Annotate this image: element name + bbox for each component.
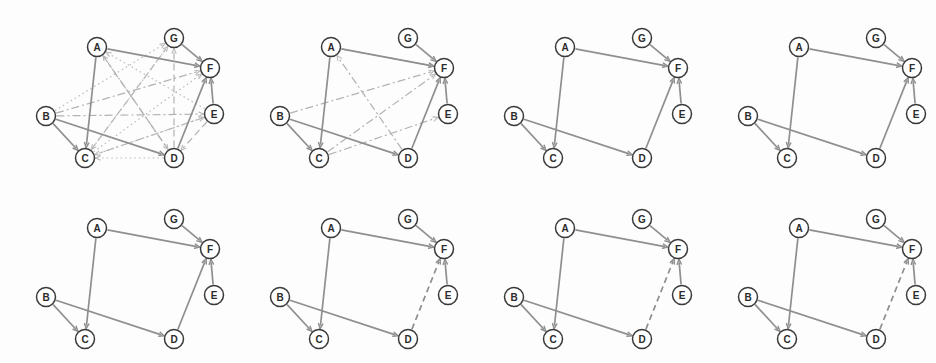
node-label: A bbox=[561, 42, 568, 53]
graph-edge-d-a bbox=[339, 58, 402, 149]
graph-node-d[interactable]: D bbox=[867, 149, 886, 168]
graph-node-g[interactable]: G bbox=[633, 210, 652, 229]
node-label: D bbox=[404, 334, 411, 345]
graph-node-a[interactable]: A bbox=[790, 219, 809, 238]
graph-node-b[interactable]: B bbox=[505, 288, 524, 307]
graph-canvas: AGFEBCD bbox=[468, 181, 702, 362]
graph-node-c[interactable]: C bbox=[310, 330, 329, 349]
graph-node-c[interactable]: C bbox=[310, 149, 329, 168]
node-label: D bbox=[638, 153, 645, 164]
graph-node-a[interactable]: A bbox=[790, 38, 809, 57]
graph-node-f[interactable]: F bbox=[201, 240, 220, 259]
arrowhead-icon bbox=[160, 43, 165, 44]
node-label: C bbox=[81, 334, 88, 345]
graph-node-d[interactable]: D bbox=[399, 149, 418, 168]
graph-node-b[interactable]: B bbox=[271, 107, 290, 126]
graph-canvas: AGFEBCD bbox=[702, 181, 936, 362]
node-label: D bbox=[404, 153, 411, 164]
graph-canvas: AGFEBCD bbox=[234, 0, 468, 181]
graph-node-g[interactable]: G bbox=[399, 210, 418, 229]
graph-node-d[interactable]: D bbox=[399, 330, 418, 349]
graph-node-f[interactable]: F bbox=[669, 240, 688, 259]
graph-node-c[interactable]: C bbox=[76, 149, 95, 168]
graph-sequence-figure: AGFEBCDAGFEBCDAGFEBCDAGFEBCDAGFEBCDAGFEB… bbox=[0, 0, 936, 363]
graph-node-e[interactable]: E bbox=[439, 286, 458, 305]
graph-node-a[interactable]: A bbox=[322, 219, 341, 238]
graph-node-a[interactable]: A bbox=[556, 38, 575, 57]
graph-edge-d-f bbox=[178, 261, 205, 329]
graph-node-b[interactable]: B bbox=[739, 288, 758, 307]
arrowhead-icon bbox=[195, 70, 200, 71]
graph-node-f[interactable]: F bbox=[435, 240, 454, 259]
node-label: E bbox=[211, 109, 218, 120]
arrowhead-icon bbox=[96, 156, 101, 158]
node-label: F bbox=[675, 244, 681, 255]
graph-node-c[interactable]: C bbox=[778, 149, 797, 168]
graph-node-a[interactable]: A bbox=[322, 38, 341, 57]
graph-node-b[interactable]: B bbox=[739, 107, 758, 126]
graph-node-d[interactable]: D bbox=[165, 149, 184, 168]
graph-node-b[interactable]: B bbox=[271, 288, 290, 307]
graph-node-e[interactable]: E bbox=[907, 105, 926, 124]
graph-node-f[interactable]: F bbox=[903, 59, 922, 78]
graph-canvas: AGFEBCD bbox=[0, 0, 234, 181]
graph-node-g[interactable]: G bbox=[165, 29, 184, 48]
graph-node-e[interactable]: E bbox=[673, 286, 692, 305]
graph-edge-e-f bbox=[445, 262, 447, 284]
graph-edge-a-f bbox=[341, 49, 431, 66]
node-label: B bbox=[276, 292, 283, 303]
graph-node-f[interactable]: F bbox=[903, 240, 922, 259]
node-label: C bbox=[783, 334, 790, 345]
graph-edge-e-f bbox=[445, 81, 447, 103]
node-label: G bbox=[872, 214, 880, 225]
graph-node-e[interactable]: E bbox=[673, 105, 692, 124]
graph-node-e[interactable]: E bbox=[205, 286, 224, 305]
graph-node-g[interactable]: G bbox=[633, 29, 652, 48]
graph-edge-d-f bbox=[412, 261, 439, 329]
node-label: G bbox=[872, 33, 880, 44]
graph-edge-d-f bbox=[412, 80, 439, 148]
node-label: A bbox=[795, 223, 802, 234]
arrowhead-icon bbox=[96, 158, 101, 160]
graph-node-b[interactable]: B bbox=[505, 107, 524, 126]
graph-edge-e-f bbox=[679, 81, 681, 103]
arrowhead-icon bbox=[199, 112, 204, 114]
graph-node-f[interactable]: F bbox=[435, 59, 454, 78]
graph-node-d[interactable]: D bbox=[867, 330, 886, 349]
arrowhead-icon bbox=[429, 70, 434, 71]
node-label: B bbox=[42, 292, 49, 303]
graph-node-a[interactable]: A bbox=[88, 219, 107, 238]
graph-node-f[interactable]: F bbox=[201, 59, 220, 78]
graph-node-d[interactable]: D bbox=[633, 330, 652, 349]
graph-edge-a-f bbox=[575, 230, 665, 247]
graph-node-c[interactable]: C bbox=[76, 330, 95, 349]
graph-node-b[interactable]: B bbox=[37, 107, 56, 126]
graph-edge-d-f bbox=[880, 261, 907, 329]
node-label: A bbox=[327, 223, 334, 234]
graph-node-a[interactable]: A bbox=[556, 219, 575, 238]
panel-2-partially-pruned: AGFEBCD bbox=[234, 0, 468, 181]
graph-node-e[interactable]: E bbox=[439, 105, 458, 124]
node-label: C bbox=[549, 153, 556, 164]
graph-node-c[interactable]: C bbox=[544, 330, 563, 349]
graph-edge-b-g bbox=[55, 45, 163, 111]
graph-node-g[interactable]: G bbox=[399, 29, 418, 48]
node-label: B bbox=[744, 292, 751, 303]
graph-node-c[interactable]: C bbox=[778, 330, 797, 349]
graph-node-a[interactable]: A bbox=[88, 38, 107, 57]
graph-node-f[interactable]: F bbox=[669, 59, 688, 78]
graph-node-g[interactable]: G bbox=[867, 29, 886, 48]
graph-node-c[interactable]: C bbox=[544, 149, 563, 168]
graph-node-d[interactable]: D bbox=[633, 149, 652, 168]
node-label: C bbox=[81, 153, 88, 164]
node-label: G bbox=[170, 33, 178, 44]
graph-node-d[interactable]: D bbox=[165, 330, 184, 349]
node-label: G bbox=[404, 33, 412, 44]
graph-edge-b-e bbox=[56, 114, 200, 116]
graph-node-g[interactable]: G bbox=[867, 210, 886, 229]
graph-node-e[interactable]: E bbox=[205, 105, 224, 124]
graph-canvas: AGFEBCD bbox=[0, 181, 234, 362]
graph-node-e[interactable]: E bbox=[907, 286, 926, 305]
graph-node-g[interactable]: G bbox=[165, 210, 184, 229]
graph-node-b[interactable]: B bbox=[37, 288, 56, 307]
